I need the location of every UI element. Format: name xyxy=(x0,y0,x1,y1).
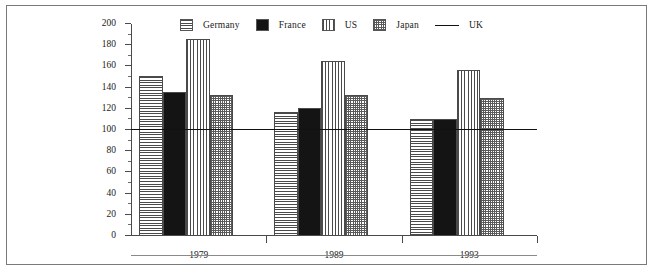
bar-germany-1989 xyxy=(274,112,298,236)
bar-germany-1979 xyxy=(139,76,163,236)
y-tick-minor xyxy=(128,140,132,141)
y-tick-major xyxy=(125,171,131,172)
y-tick-minor xyxy=(128,118,132,119)
bar-us-1993 xyxy=(457,70,481,236)
y-tick-minor xyxy=(128,55,132,56)
y-axis-line xyxy=(131,24,132,236)
y-tick-major xyxy=(125,23,131,24)
bar-us-1979 xyxy=(186,39,210,236)
y-tick-label: 60 xyxy=(107,168,117,178)
y-tick-major xyxy=(125,193,131,194)
y-tick-label: 140 xyxy=(102,83,116,93)
plot-area: 020406080100120140160180200 197919891993 xyxy=(131,24,537,236)
y-tick-minor xyxy=(128,97,132,98)
bar-japan-1979 xyxy=(210,95,234,236)
bar-japan-1993 xyxy=(480,98,504,236)
y-tick-major xyxy=(125,214,131,215)
y-tick-minor xyxy=(128,161,132,162)
y-tick-major xyxy=(125,108,131,109)
bar-france-1979 xyxy=(163,92,187,236)
y-tick-label: 20 xyxy=(107,210,117,220)
y-tick-label: 120 xyxy=(102,104,116,114)
category-separator xyxy=(402,236,403,243)
bar-japan-1989 xyxy=(345,95,369,236)
y-tick-label: 40 xyxy=(107,189,117,199)
category-separator xyxy=(266,236,267,243)
y-tick-minor xyxy=(128,34,132,35)
y-tick-label: 100 xyxy=(102,125,116,135)
chart-figure: GermanyFranceUSJapanUK 02040608010012014… xyxy=(0,0,653,271)
y-tick-minor xyxy=(128,182,132,183)
baseline-rule xyxy=(131,255,537,256)
y-tick-label: 160 xyxy=(102,62,116,72)
y-tick-label: 80 xyxy=(107,146,117,156)
bar-france-1989 xyxy=(298,108,322,236)
bar-us-1989 xyxy=(321,61,345,236)
y-tick-major xyxy=(125,235,131,236)
y-tick-major xyxy=(125,65,131,66)
uk-reference-line xyxy=(131,129,537,130)
y-tick-label: 0 xyxy=(111,231,116,241)
y-tick-minor xyxy=(128,224,132,225)
y-tick-minor xyxy=(128,76,132,77)
y-tick-label: 180 xyxy=(102,40,116,50)
y-tick-minor xyxy=(128,203,132,204)
bar-germany-1993 xyxy=(410,119,434,236)
y-tick-label: 200 xyxy=(102,19,116,29)
y-tick-major xyxy=(125,44,131,45)
y-tick-major xyxy=(125,87,131,88)
category-separator-end xyxy=(537,236,538,243)
y-tick-major xyxy=(125,150,131,151)
bar-france-1993 xyxy=(433,119,457,236)
